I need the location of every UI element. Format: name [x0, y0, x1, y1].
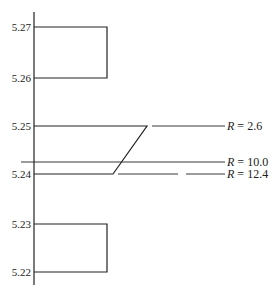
tick-label-5-22: 5.22: [12, 266, 31, 278]
transition-shape: [34, 126, 147, 174]
tick-label-5-26: 5.26: [12, 72, 32, 84]
label-r-2-6: R = 2.6: [226, 119, 262, 133]
tick-label-5-25: 5.25: [12, 120, 32, 132]
energy-level-diagram: 5.27 5.26 5.25 5.24 5.23 5.22 R = 2.6 R …: [0, 0, 280, 299]
tick-label-5-27: 5.27: [12, 21, 32, 33]
top-box: [34, 27, 107, 78]
tick-label-5-24: 5.24: [12, 168, 32, 180]
bottom-box: [34, 224, 107, 272]
label-r-12-4: R = 12.4: [226, 167, 268, 181]
tick-label-5-23: 5.23: [12, 218, 32, 230]
